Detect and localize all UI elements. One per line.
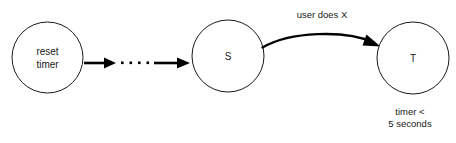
edge-s-to-t-curve <box>263 34 375 48</box>
edge-ellipsis-to-s <box>154 58 190 69</box>
edge-s-to-t-arrowhead <box>363 35 381 47</box>
ellipsis-dots <box>121 62 149 65</box>
annotation-timer-condition: timer < 5 seconds <box>388 106 432 129</box>
edge-s-to-t <box>263 34 381 48</box>
timer-condition-line2: 5 seconds <box>388 118 432 129</box>
reset-timer-label-line2: timer <box>36 59 59 70</box>
edge-reset-arrowhead <box>104 58 116 69</box>
diagram-canvas: reset timer S us <box>0 0 456 143</box>
node-s[interactable]: S <box>192 20 264 92</box>
ellipsis-dot-4 <box>147 62 150 65</box>
node-t[interactable]: T <box>377 22 449 94</box>
s-label: S <box>225 51 232 62</box>
edge-label-user-does-x: user does X <box>297 9 348 20</box>
reset-timer-label-line1: reset <box>36 46 58 57</box>
edge-reset-to-ellipsis <box>84 58 116 69</box>
edge-s-arrowhead <box>177 58 190 69</box>
timer-condition-line1: timer < <box>395 106 425 117</box>
node-reset-timer[interactable]: reset timer <box>12 22 83 93</box>
ellipsis-dot-1 <box>121 62 124 65</box>
reset-timer-circle[interactable] <box>12 22 83 93</box>
ellipsis-dot-2 <box>130 62 133 65</box>
t-label: T <box>410 53 416 64</box>
ellipsis-dot-3 <box>138 62 141 65</box>
state-transition-diagram: reset timer S us <box>0 0 456 143</box>
